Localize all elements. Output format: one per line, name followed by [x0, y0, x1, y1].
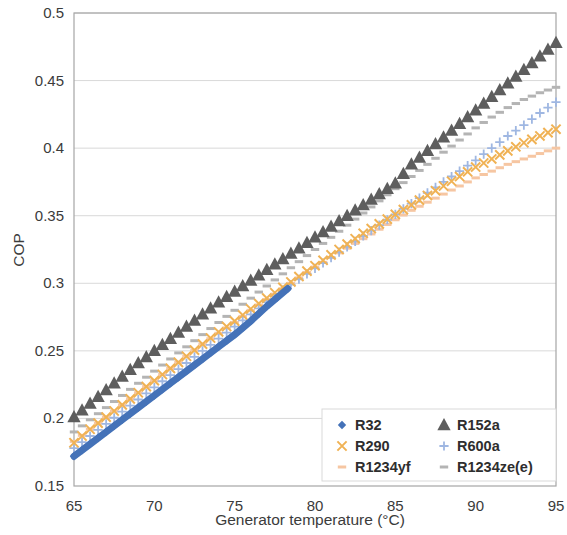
y-axis-title: COP [10, 233, 27, 267]
y-tick-label: 0.5 [43, 4, 64, 21]
x-axis-title: Generator temperature (°C) [215, 511, 405, 528]
chart-legend: R32R152aR290R600aR1234yfR1234ze(e) [322, 409, 556, 481]
x-tick-label: 90 [467, 497, 484, 514]
legend-label: R32 [355, 417, 382, 433]
x-tick-label: 65 [66, 497, 83, 514]
legend-label: R600a [457, 438, 501, 454]
y-tick-label: 0.15 [35, 477, 64, 494]
y-tick-label: 0.35 [35, 207, 64, 224]
y-tick-label: 0.3 [43, 274, 64, 291]
y-tick-label: 0.2 [43, 409, 64, 426]
legend-label: R152a [457, 417, 501, 433]
legend-label: R1234yf [355, 459, 411, 475]
y-tick-label: 0.25 [35, 342, 64, 359]
x-tick-label: 95 [548, 497, 565, 514]
legend-label: R1234ze(e) [457, 459, 533, 475]
x-tick-label: 70 [146, 497, 163, 514]
cop-vs-generator-temperature-chart: 0.150.20.250.30.350.40.450.5 65707580859… [0, 0, 567, 535]
legend-label: R290 [355, 438, 390, 454]
y-tick-label: 0.4 [43, 139, 64, 156]
y-tick-label: 0.45 [35, 72, 64, 89]
chart-figure: 0.150.20.250.30.350.40.450.5 65707580859… [0, 0, 567, 535]
